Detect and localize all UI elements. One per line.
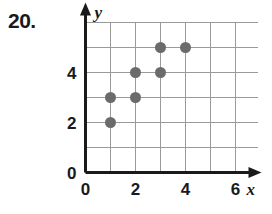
y-tick-label: 0	[67, 164, 76, 183]
axis-letters: yx	[93, 3, 256, 199]
scatter-plot-canvas: 0246024 yx	[0, 0, 272, 214]
data-point	[155, 67, 166, 78]
axis-lines	[80, 3, 262, 179]
y-tick-label: 2	[67, 114, 76, 133]
x-tick-label: 4	[181, 180, 191, 199]
data-point	[130, 92, 141, 103]
data-point	[105, 117, 116, 128]
data-point	[180, 42, 191, 53]
x-tick-label: 6	[231, 180, 240, 199]
y-axis-arrowhead	[80, 3, 91, 16]
x-axis-label: x	[246, 180, 256, 199]
data-points	[105, 42, 191, 128]
x-tick-label: 0	[81, 180, 90, 199]
y-tick-label: 4	[67, 64, 77, 83]
data-point	[105, 92, 116, 103]
exercise-item: 20. 0246024 yx	[0, 0, 272, 214]
data-point	[130, 67, 141, 78]
y-axis-label: y	[93, 3, 103, 22]
scatter-plot: 0246024 yx	[0, 0, 272, 214]
tick-labels: 0246024	[67, 64, 240, 199]
data-point	[155, 42, 166, 53]
x-tick-label: 2	[131, 180, 140, 199]
x-axis-arrowhead	[249, 167, 262, 178]
